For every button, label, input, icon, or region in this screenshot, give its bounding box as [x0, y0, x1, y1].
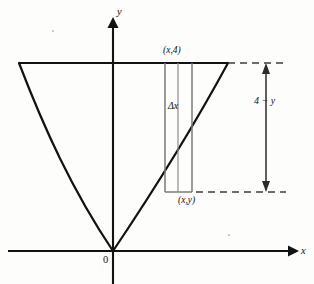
dimension-arrowhead-bottom [262, 181, 270, 192]
x-axis-label: x [301, 246, 306, 257]
figure-canvas [0, 0, 314, 284]
strip-element [165, 63, 192, 192]
x-axis [8, 246, 299, 257]
scan-speck [228, 234, 230, 236]
figure-container: y x 0 (x,4) (x,y) Δx 4 − y [0, 0, 314, 284]
dimension-arrowhead-top [262, 63, 270, 74]
y-axis-label: y [117, 7, 122, 18]
dimension-arrow-4-minus-y [262, 63, 270, 192]
y-axis-arrowhead [108, 17, 119, 28]
delta-x-label: Δx [168, 101, 178, 111]
point-label-bottom: (x,y) [178, 196, 195, 206]
point-label-top: (x,4) [163, 46, 181, 56]
scan-speck [52, 30, 54, 32]
origin-label: 0 [103, 255, 108, 266]
x-axis-arrowhead [288, 246, 299, 257]
four-minus-y-label: 4 − y [254, 96, 275, 106]
parabola-curve [19, 63, 228, 251]
